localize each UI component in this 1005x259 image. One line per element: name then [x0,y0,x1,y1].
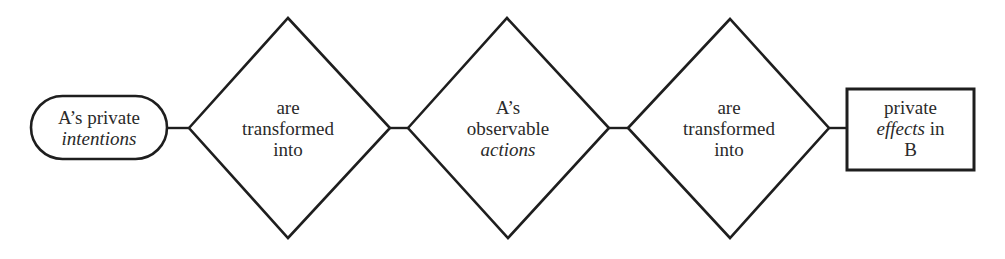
node-label-observable-actions: A’s observable actions [428,97,588,160]
label-line-italic: actions [428,139,588,160]
node-label-effects: private effects in B [847,97,974,160]
label-line: into [649,139,809,160]
node-label-transformed-2: are transformed into [649,97,809,160]
label-line: are [208,97,368,118]
label-line: into [208,139,368,160]
label-line-mixed: effects in [847,118,974,139]
label-line: A’s private [31,107,167,128]
label-line: transformed [649,118,809,139]
node-label-transformed-1: are transformed into [208,97,368,160]
label-line: B [847,139,974,160]
label-line: are [649,97,809,118]
label-line: private [847,97,974,118]
label-fragment: in [925,118,945,139]
label-line-italic: intentions [31,128,167,149]
label-italic-fragment: effects [876,118,925,139]
label-line: A’s [428,97,588,118]
label-line: observable [428,118,588,139]
node-label-intentions: A’s private intentions [31,107,167,149]
label-line: transformed [208,118,368,139]
